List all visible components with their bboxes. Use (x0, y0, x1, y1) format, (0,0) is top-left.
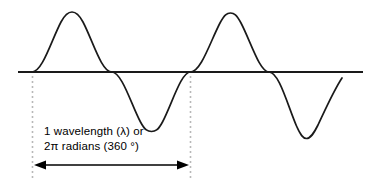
wavelength-annotation: 1 wavelength (λ) or 2π radians (360 °) (44, 124, 144, 154)
annotation-line-1: 1 wavelength (λ) or (44, 124, 144, 139)
annotation-line-2: 2π radians (360 °) (44, 139, 144, 154)
sine-wave-curve (32, 12, 342, 139)
wavelength-diagram: 1 wavelength (λ) or 2π radians (360 °) (0, 0, 374, 188)
arrow-head-left-icon (34, 161, 46, 170)
wave-diagram-svg (0, 0, 374, 188)
arrow-head-right-icon (177, 161, 189, 170)
